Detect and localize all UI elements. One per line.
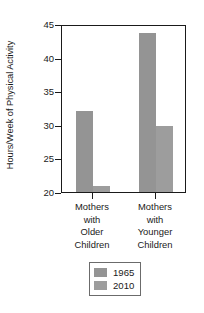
x-axis-label-younger-children: Mothers with Younger Children — [116, 201, 194, 251]
y-tick-label-25: 25 — [28, 154, 54, 164]
legend-swatch-2010 — [94, 281, 107, 290]
plot-inner — [62, 26, 185, 192]
bar-1965-younger-children — [139, 33, 156, 192]
y-axis-title-text: Hours/Week of Physical Activity — [5, 41, 15, 169]
legend-item-2010: 2010 — [94, 279, 134, 292]
bar-chart-figure: Hours/Week of Physical Activity 45 40 35… — [0, 0, 204, 313]
y-axis-tick-labels: 45 40 35 30 25 20 — [25, 0, 54, 313]
x-tick-mark-older — [92, 193, 93, 199]
legend-swatch-1965 — [94, 268, 107, 277]
legend-label-1965: 1965 — [113, 268, 134, 278]
y-tick-label-45: 45 — [28, 20, 54, 30]
y-tick-label-30: 30 — [28, 121, 54, 131]
x-label-line-2: with — [116, 214, 194, 227]
x-label-line-1: Mothers — [116, 201, 194, 214]
y-tick-label-40: 40 — [28, 54, 54, 64]
x-tick-mark-younger — [155, 193, 156, 199]
x-label-line-3: Younger — [116, 226, 194, 239]
legend-item-1965: 1965 — [94, 266, 134, 279]
bar-2010-older-children — [93, 186, 110, 192]
y-axis-title: Hours/Week of Physical Activity — [0, 0, 20, 210]
y-tick-label-20: 20 — [28, 188, 54, 198]
y-tick-mark-20 — [55, 193, 61, 194]
y-tick-label-35: 35 — [28, 87, 54, 97]
plot-area — [61, 25, 186, 193]
legend-label-2010: 2010 — [113, 281, 134, 291]
bar-2010-younger-children — [156, 126, 173, 192]
x-label-line-4: Children — [116, 239, 194, 252]
chart-legend: 1965 2010 — [89, 262, 141, 296]
bar-1965-older-children — [76, 111, 93, 192]
